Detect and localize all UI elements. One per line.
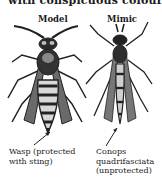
wasp-illustration [8, 26, 86, 134]
mimic-caption-line3: (unprotected) [96, 166, 154, 176]
conops-illustration [86, 22, 152, 124]
mimic-caption-line1: Conops [96, 147, 154, 157]
mimic-caption: Conops quadrifasciata (unprotected) [96, 147, 154, 176]
wasp-caption: Wasp (protected with sting) [9, 147, 75, 166]
wasp-caption-line2: with sting) [9, 157, 75, 167]
wasp-caption-line1: Wasp (protected [9, 147, 75, 157]
mimic-caption-line2: quadrifasciata [96, 157, 154, 167]
